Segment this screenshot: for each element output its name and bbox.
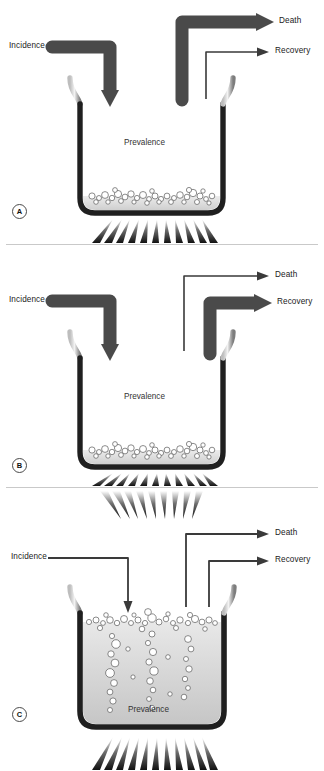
death-label-b: Death: [275, 270, 297, 279]
flames-c-top: [100, 491, 203, 519]
vessel-rim-right-c: [224, 587, 234, 613]
incidence-arrow-b: [52, 301, 119, 361]
recovery-arrow-b: [210, 294, 272, 354]
panel-b-graphics: [0, 246, 324, 486]
death-label-a: Death: [279, 16, 301, 25]
panel-divider-ab: [6, 244, 318, 245]
incidence-arrow-a: [52, 47, 119, 107]
prevalence-label-c: Prevalence: [128, 705, 169, 714]
death-arrow-c: [186, 530, 269, 608]
panel-a-graphics: [0, 0, 324, 244]
vessel-rim-left-a: [70, 78, 80, 104]
panel-divider-bc: [6, 487, 318, 488]
death-label-c: Death: [275, 528, 297, 537]
panel-b: Incidence Death Recovery Prevalence B: [0, 246, 324, 486]
flames-b: [92, 473, 218, 486]
vessel-rim-right-b: [223, 332, 233, 358]
prevalence-label-a: Prevalence: [124, 138, 165, 147]
vessel-rim-left-c: [70, 587, 80, 613]
recovery-label-c: Recovery: [275, 555, 310, 564]
panel-c: Incidence Death Recovery Prevalence C: [0, 489, 324, 771]
recovery-arrow-a: [206, 48, 269, 100]
death-arrow-b: [184, 272, 269, 352]
incidence-label-a: Incidence: [9, 41, 45, 50]
death-arrow-a: [182, 13, 274, 100]
panel-badge-c: C: [12, 707, 27, 722]
incidence-label-b: Incidence: [9, 295, 45, 304]
recovery-arrow-c: [209, 557, 269, 608]
vessel-rim-right-a: [223, 78, 233, 104]
panel-a: Incidence Death Recovery Prevalence A: [0, 0, 324, 244]
recovery-label-b: Recovery: [277, 297, 312, 306]
panel-badge-a: A: [12, 204, 27, 219]
flames-a: [92, 219, 218, 243]
figure-canvas: Incidence Death Recovery Prevalence A: [0, 0, 324, 771]
vessel-rim-left-b: [70, 332, 80, 358]
recovery-label-a: Recovery: [275, 46, 310, 55]
flames-c-bottom: [92, 737, 218, 770]
panel-badge-b: B: [12, 458, 27, 473]
prevalence-label-b: Prevalence: [124, 392, 165, 401]
incidence-arrow-c: [48, 558, 133, 613]
incidence-label-c: Incidence: [11, 552, 47, 561]
